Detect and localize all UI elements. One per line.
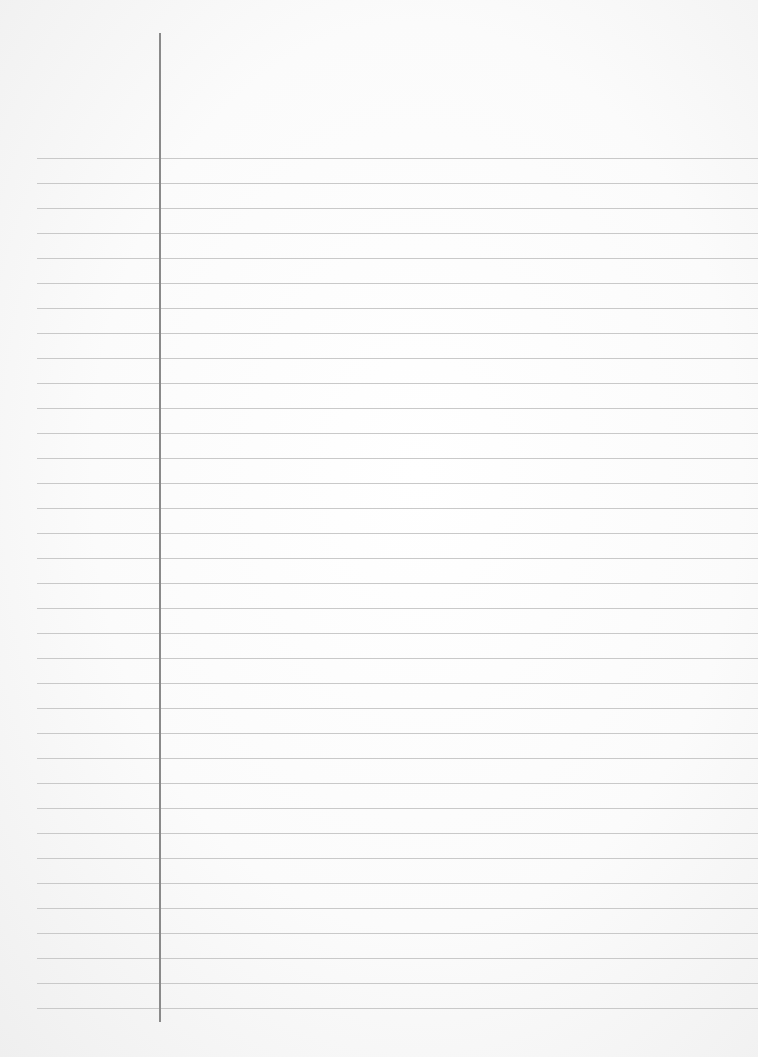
notebook-page	[0, 0, 758, 1057]
writing-area	[162, 133, 758, 1017]
margin-line	[159, 33, 161, 1022]
